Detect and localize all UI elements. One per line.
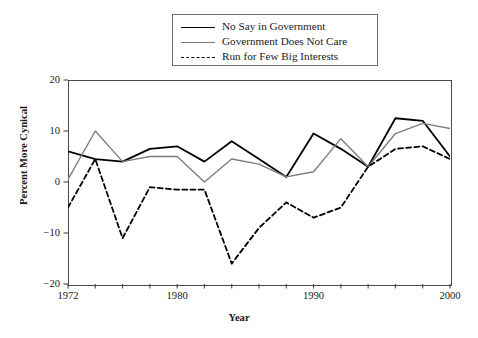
plot-lines [68,80,450,284]
dashed-black-line-key [181,52,215,62]
legend-item-run-for-few-big-interests: Run for Few Big Interests [181,49,371,64]
y-tick-label: 20 [30,75,60,85]
y-tick-label: 10 [30,126,60,136]
legend-label: Government Does Not Care [222,35,347,48]
solid-gray-line-key [181,37,215,47]
chart-legend: No Say in Government Government Does Not… [172,14,378,66]
legend-label: No Say in Government [222,20,325,33]
x-tick-label: 1972 [48,290,88,301]
chart-figure: No Say in Government Government Does Not… [0,0,478,338]
y-tick-label: 0 [30,177,60,187]
series-line-1 [68,123,450,182]
x-axis-title: Year [0,312,478,323]
y-tick-label: −10 [30,228,60,238]
legend-item-no-say: No Say in Government [181,19,371,34]
x-tick-label: 1980 [157,290,197,301]
x-tick-label: 2000 [430,290,470,301]
solid-black-line-key [181,22,215,32]
series-line-0 [68,118,450,177]
y-tick-label: −20 [30,279,60,289]
y-axis-tick-labels: 20100−10−20 [26,0,60,338]
legend-label: Run for Few Big Interests [222,50,338,63]
legend-item-gov-does-not-care: Government Does Not Care [181,34,371,49]
y-axis-title: Percent More Cynical [18,81,29,231]
x-tick-label: 1990 [294,290,334,301]
